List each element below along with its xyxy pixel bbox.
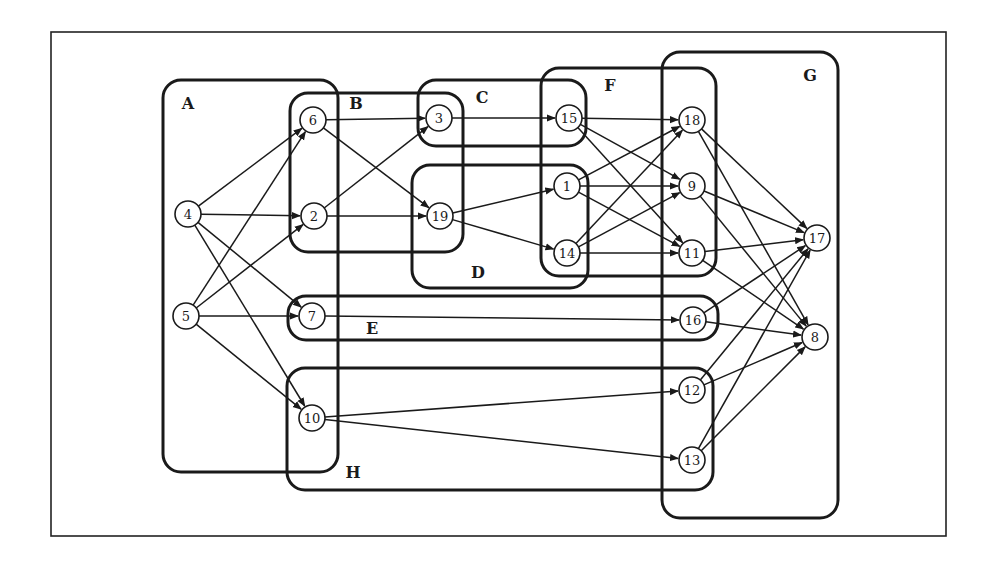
node-label: 4 xyxy=(184,207,192,222)
group-label-b: B xyxy=(349,94,363,113)
node-9: 9 xyxy=(679,173,705,199)
node-label: 5 xyxy=(182,309,190,324)
node-label: 8 xyxy=(811,330,819,345)
node-7: 7 xyxy=(299,303,325,329)
node-label: 18 xyxy=(684,113,701,128)
node-1: 1 xyxy=(554,173,580,199)
node-19: 19 xyxy=(427,203,453,229)
edge-19-to-14 xyxy=(453,220,554,250)
node-label: 3 xyxy=(435,111,443,126)
group-label-c: C xyxy=(476,88,489,107)
node-label: 9 xyxy=(688,179,696,194)
node-13: 13 xyxy=(679,447,705,473)
edge-16-to-8 xyxy=(706,322,801,335)
edge-15-to-18 xyxy=(582,118,678,120)
node-label: 17 xyxy=(809,231,826,246)
node-label: 19 xyxy=(432,209,449,224)
edge-10-to-13 xyxy=(325,419,678,458)
node-10: 10 xyxy=(299,405,325,431)
node-label: 12 xyxy=(684,383,701,398)
node-4: 4 xyxy=(175,201,201,227)
node-label: 1 xyxy=(563,179,571,194)
node-8: 8 xyxy=(802,324,828,350)
group-label-f: F xyxy=(604,76,616,95)
edge-11-to-17 xyxy=(705,240,803,252)
node-5: 5 xyxy=(173,303,199,329)
node-12: 12 xyxy=(679,377,705,403)
edge-10-to-12 xyxy=(325,391,678,417)
node-label: 6 xyxy=(309,113,317,128)
node-15: 15 xyxy=(556,105,582,131)
node-11: 11 xyxy=(679,240,705,266)
edge-6-to-3 xyxy=(326,118,425,120)
node-3: 3 xyxy=(426,105,452,131)
diagram-canvas: 45627103191511418911161213178 ABCDFGEH xyxy=(0,0,1000,568)
edge-19-to-1 xyxy=(453,189,554,213)
group-label-d: D xyxy=(471,263,485,282)
group-label-g: G xyxy=(803,66,817,85)
node-label: 15 xyxy=(561,111,578,126)
node-16: 16 xyxy=(680,307,706,333)
node-2: 2 xyxy=(301,203,327,229)
node-label: 11 xyxy=(684,246,701,261)
graph-diagram: 45627103191511418911161213178 ABCDFGEH xyxy=(0,0,1000,568)
node-14: 14 xyxy=(554,240,580,266)
node-6: 6 xyxy=(300,107,326,133)
edge-1-to-18 xyxy=(579,127,680,180)
node-label: 14 xyxy=(559,246,576,261)
edge-14-to-18 xyxy=(576,130,683,243)
node-18: 18 xyxy=(679,107,705,133)
edge-13-to-8 xyxy=(701,347,805,451)
group-label-h: H xyxy=(345,463,360,482)
node-17: 17 xyxy=(804,225,830,251)
node-label: 16 xyxy=(685,313,702,328)
node-label: 2 xyxy=(310,209,318,224)
node-label: 10 xyxy=(304,411,321,426)
group-boxes xyxy=(163,52,838,518)
edge-16-to-17 xyxy=(704,246,806,313)
group-label-e: E xyxy=(366,319,378,338)
edge-5-to-10 xyxy=(196,324,301,409)
node-label: 7 xyxy=(308,309,316,324)
edge-4-to-6 xyxy=(198,128,301,206)
node-label: 13 xyxy=(684,453,701,468)
group-label-a: A xyxy=(181,94,195,113)
